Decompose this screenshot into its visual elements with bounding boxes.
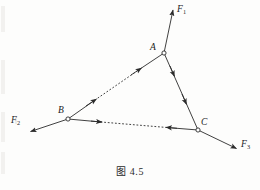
- member-BC: [68, 119, 198, 130]
- figure-caption: 图 4.5: [0, 163, 260, 178]
- force-arrow-F3: [198, 130, 237, 149]
- node-marker-C: [196, 128, 200, 132]
- member-BA-arrow-lower: [86, 99, 97, 106]
- force-diagram: [0, 0, 260, 190]
- node-label-A: A: [150, 43, 156, 53]
- member-lines: [68, 53, 198, 130]
- node-marker-B: [66, 117, 70, 121]
- member-BA-arrow-upper: [131, 68, 142, 75]
- force-label-F2: F2: [11, 116, 20, 126]
- figure-container: A B C F1 F2 F3 图 4.5: [0, 0, 260, 190]
- node-label-B: B: [58, 106, 64, 116]
- member-AC-arrow-upper: [170, 66, 175, 77]
- node-label-C: C: [201, 118, 207, 128]
- member-BC-arrow-left: [91, 121, 102, 122]
- member-AC: [164, 53, 198, 130]
- external-force-arrows: [31, 10, 237, 149]
- force-arrow-F1: [164, 10, 173, 53]
- node-markers: [66, 51, 200, 132]
- force-arrow-F2: [31, 119, 69, 132]
- force-label-F1: F1: [177, 5, 186, 15]
- member-AC-arrow-lower: [182, 94, 187, 105]
- node-marker-A: [162, 51, 166, 55]
- member-BA: [68, 53, 164, 119]
- member-BC-arrow-right: [166, 127, 177, 128]
- force-label-F3: F3: [241, 140, 250, 150]
